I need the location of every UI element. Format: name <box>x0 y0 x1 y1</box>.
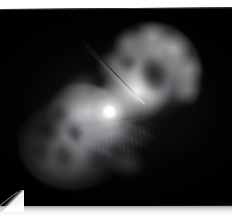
central-star-core <box>103 105 116 118</box>
astronomical-image-viewer <box>0 0 232 216</box>
page-bottom-band <box>0 206 232 216</box>
nebula-image <box>0 7 232 208</box>
photographic-plate <box>0 7 232 208</box>
plate-surface <box>0 7 232 208</box>
